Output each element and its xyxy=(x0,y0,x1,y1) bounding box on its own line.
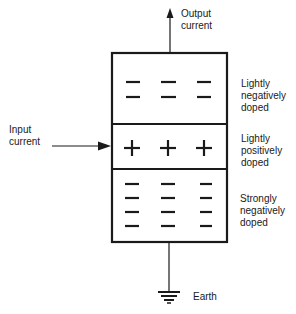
bottom-region-label: Strongly negatively doped xyxy=(240,193,285,229)
earth-label: Earth xyxy=(193,291,217,303)
top-region-charges xyxy=(126,82,211,97)
top-region-label: Lightly negatively doped xyxy=(241,78,286,114)
input-current-label: Input current xyxy=(9,124,40,148)
middle-region-label: Lightly positively doped xyxy=(241,133,282,169)
earth-icon xyxy=(158,242,180,303)
output-arrow xyxy=(167,8,174,53)
input-arrow xyxy=(52,142,111,151)
output-current-label: Output current xyxy=(181,8,212,32)
middle-region-charges xyxy=(124,140,212,156)
bottom-region-charges xyxy=(125,184,212,226)
